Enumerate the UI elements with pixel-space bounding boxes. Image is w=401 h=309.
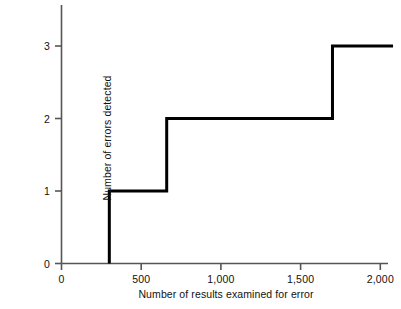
- step-chart-plot: [0, 0, 401, 309]
- x-tick-label-2000: 2,000: [367, 273, 394, 285]
- y-tick-label-1: 1: [36, 185, 50, 197]
- x-tick-label-1500: 1,500: [287, 273, 314, 285]
- y-tick-label-3: 3: [36, 40, 50, 52]
- step-line-series: [109, 46, 393, 264]
- x-tick-label-500: 500: [132, 273, 150, 285]
- y-tick-label-2: 2: [36, 113, 50, 125]
- x-axis-title: Number of results examined for error: [61, 288, 391, 300]
- y-axis-title: Number of errors detected: [100, 58, 114, 218]
- x-tick-label-1000: 1,000: [207, 273, 234, 285]
- chart-figure: 0 1 2 3 0 500 1,000 1,500 2,000 Number o…: [0, 0, 401, 309]
- y-axis-ticks: [55, 46, 62, 264]
- x-tick-label-0: 0: [58, 273, 64, 285]
- x-axis-ticks: [62, 264, 381, 271]
- y-tick-label-0: 0: [36, 258, 50, 270]
